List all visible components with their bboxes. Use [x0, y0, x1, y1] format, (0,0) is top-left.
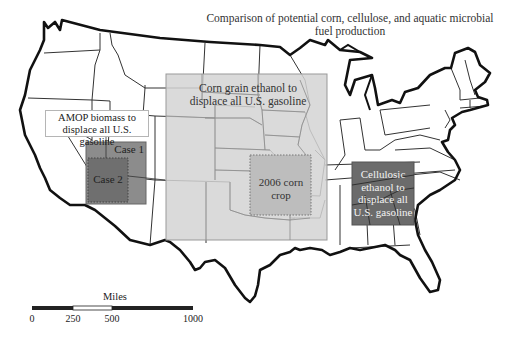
corn-grain-label-line1: Corn grain ethanol to — [168, 82, 328, 95]
cellulosic-label-line3: displace all — [352, 193, 414, 206]
map-title: Comparison of potential corn, cellulose,… — [200, 12, 500, 38]
corn-2006-label-line2: crop — [250, 189, 312, 202]
us-map — [0, 0, 519, 340]
scale-tick-0: 0 — [30, 313, 35, 324]
scale-unit-label: Miles — [95, 291, 135, 303]
case1-label: Case 1 — [110, 143, 144, 156]
corn-2006-label: 2006 corn crop — [250, 176, 312, 201]
corn-grain-label-line2: displace all U.S. gasoline — [168, 95, 328, 108]
corn-grain-label: Corn grain ethanol to displace all U.S. … — [168, 82, 328, 108]
cellulosic-label-line4: U.S. gasoline — [352, 206, 414, 219]
amop-label-line1: AMOP biomass to — [46, 112, 148, 124]
scale-bar — [32, 306, 193, 310]
scale-tick-1000: 1000 — [183, 313, 203, 324]
scale-tick-500: 500 — [105, 313, 120, 324]
cellulosic-label-line2: ethanol to — [352, 181, 414, 194]
cellulosic-label-line1: Cellulosic — [352, 168, 414, 181]
scale-tick-250: 250 — [66, 313, 81, 324]
cellulosic-label: Cellulosic ethanol to displace all U.S. … — [352, 168, 414, 219]
amop-label: AMOP biomass to displace all U.S. gasoli… — [45, 110, 149, 137]
case2-label: Case 2 — [88, 173, 128, 186]
corn-2006-label-line1: 2006 corn — [250, 176, 312, 189]
